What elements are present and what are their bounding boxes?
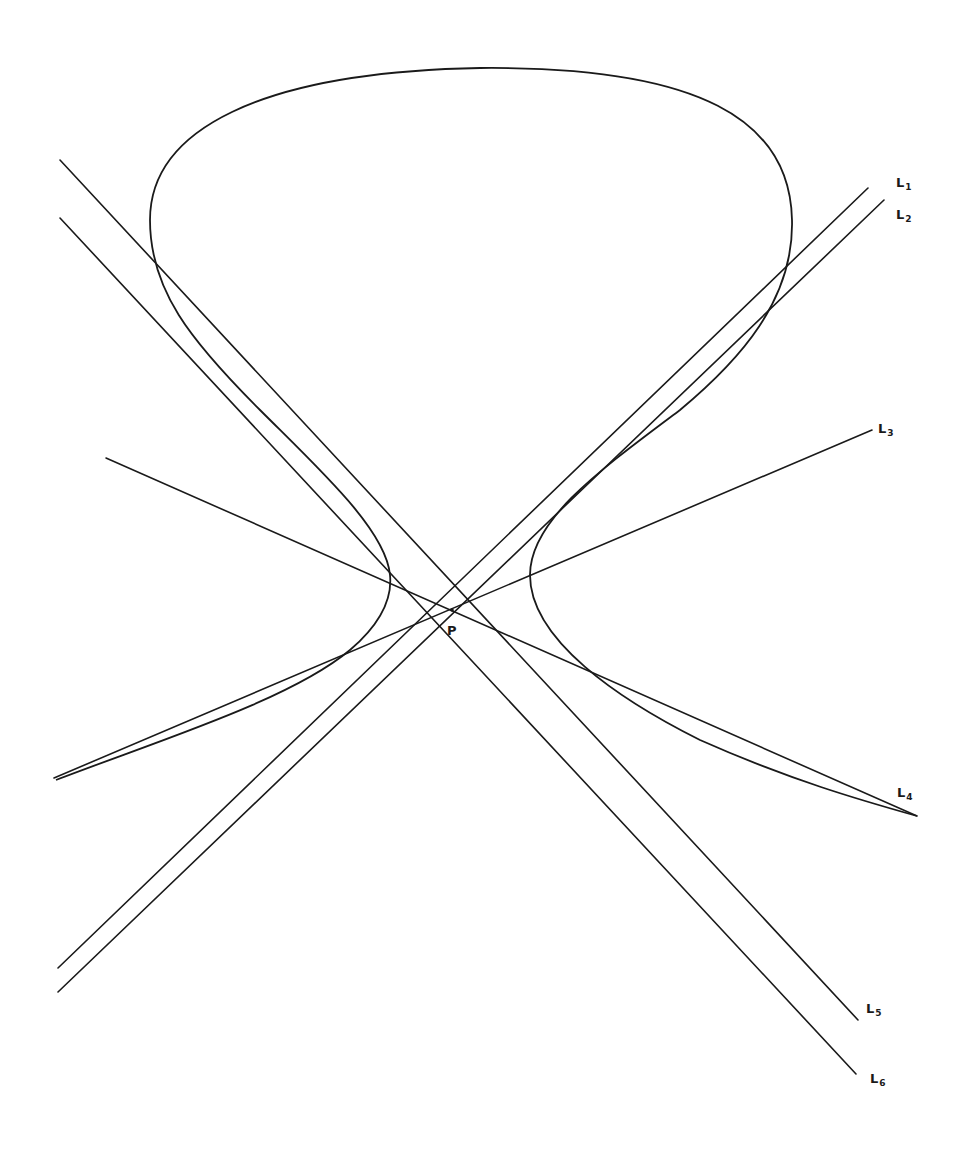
line-l6	[60, 218, 856, 1074]
line-l5	[60, 160, 858, 1020]
line-label-l3: L3	[878, 422, 894, 438]
line-label-l5: L5	[866, 1002, 882, 1018]
point-p-label: P	[447, 624, 457, 637]
diagram-canvas	[0, 0, 974, 1154]
line-label-l2: L2	[896, 208, 912, 224]
line-l3	[54, 430, 872, 778]
point-p-marker	[450, 608, 454, 612]
line-l4	[106, 458, 917, 816]
line-label-l4: L4	[897, 786, 913, 802]
curve	[56, 68, 917, 816]
line-l1	[58, 188, 868, 968]
line-label-l6: L6	[870, 1072, 886, 1088]
lines-group	[54, 160, 917, 1074]
line-label-l1: L1	[896, 176, 912, 192]
